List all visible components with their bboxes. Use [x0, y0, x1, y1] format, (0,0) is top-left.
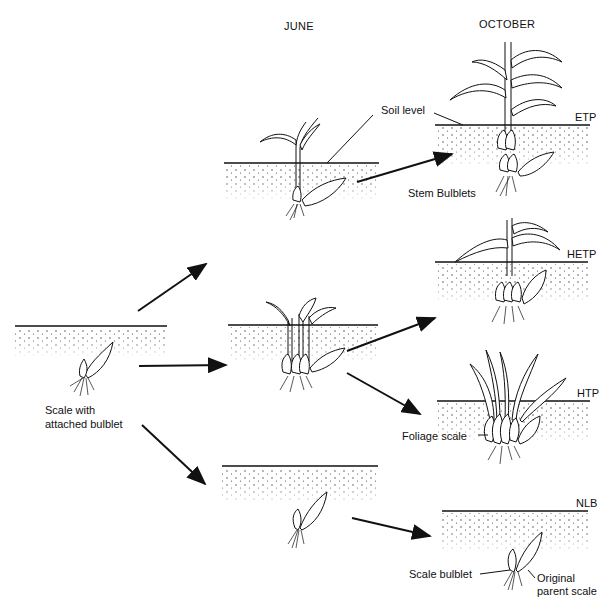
- outcome-htp: HTP: [577, 387, 599, 399]
- nlb-soil: [442, 511, 588, 555]
- june-bottom-soil: [222, 466, 378, 506]
- diagram-artwork: [0, 0, 613, 603]
- header-june: JUNE: [284, 20, 314, 32]
- label-stem-bulblets: Stem Bulblets: [408, 187, 476, 199]
- arrow-june-middle-to-htp: [347, 373, 420, 414]
- outcome-nlb: NLB: [576, 497, 597, 509]
- arrow-june-bottom-to-nlb: [352, 518, 430, 536]
- outcome-hetp: HETP: [567, 248, 596, 260]
- label-scale-with: Scale with: [45, 404, 95, 416]
- header-october: OCTOBER: [479, 18, 535, 30]
- arrow-start-to-june-top: [138, 264, 206, 311]
- label-foliage-scale: Foliage scale: [402, 430, 467, 442]
- label-scale-bulblet: Scale bulblet: [409, 568, 472, 580]
- arrow-start-to-june-middle: [139, 365, 226, 366]
- arrow-start-to-june-bottom: [142, 425, 205, 484]
- label-parent-scale: parent scale: [537, 585, 597, 597]
- etp-plant: [450, 42, 562, 196]
- start-soil: [15, 326, 167, 358]
- outcome-etp: ETP: [575, 111, 596, 123]
- label-attached-bulblet: attached bulblet: [45, 418, 123, 430]
- label-soil-level: Soil level: [381, 104, 425, 116]
- label-original: Original: [537, 572, 575, 584]
